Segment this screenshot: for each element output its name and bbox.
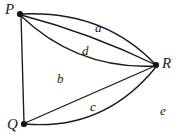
vertex-label-p: P bbox=[5, 2, 14, 17]
vertex-dot-q bbox=[21, 121, 27, 127]
edge-q-r-lower-arc bbox=[25, 67, 156, 125]
edge-p-q bbox=[21, 15, 24, 123]
vertex-dot-p bbox=[17, 11, 23, 17]
multigraph-diagram: P Q R a d b c e bbox=[0, 0, 178, 137]
edge-label-c: c bbox=[90, 100, 96, 113]
vertex-label-r: R bbox=[162, 56, 171, 71]
vertex-dot-r bbox=[153, 62, 159, 68]
edge-p-r-lower-arc bbox=[21, 16, 156, 66]
vertex-label-q: Q bbox=[7, 117, 18, 132]
edge-label-b: b bbox=[57, 72, 64, 85]
edge-label-a: a bbox=[95, 21, 102, 34]
graph-canvas bbox=[0, 0, 178, 137]
region-label-e: e bbox=[160, 104, 166, 117]
edge-label-d: d bbox=[82, 44, 89, 57]
edge-q-r-upper bbox=[25, 66, 155, 123]
